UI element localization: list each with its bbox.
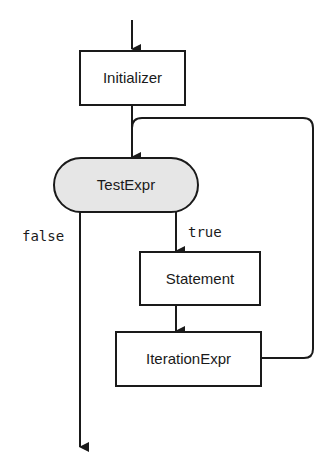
testexpr-label: TestExpr [97, 176, 155, 193]
flowchart-canvas: Initializer TestExpr false true Statemen… [0, 0, 330, 467]
statement-label: Statement [166, 270, 235, 287]
testexpr-node: TestExpr [54, 158, 198, 212]
iterationexpr-label: IterationExpr [146, 350, 231, 367]
iterationexpr-node: IterationExpr [116, 332, 261, 386]
loop-back-edge [132, 118, 313, 358]
initializer-label: Initializer [103, 69, 162, 86]
statement-node: Statement [140, 252, 260, 305]
false-label: false [22, 228, 64, 244]
initializer-node: Initializer [80, 51, 185, 105]
true-label: true [188, 224, 222, 240]
